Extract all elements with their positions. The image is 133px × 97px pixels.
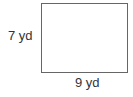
height-label: 7 yd (8, 29, 33, 42)
rectangle-shape (41, 3, 128, 73)
width-label: 9 yd (75, 76, 100, 89)
